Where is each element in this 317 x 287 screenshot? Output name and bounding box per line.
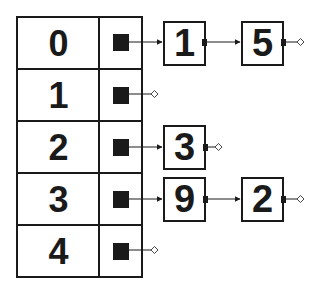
pointer-square-icon: [113, 139, 129, 156]
bucket-row-3: 3: [18, 174, 141, 226]
null-diamond-icon: [297, 196, 304, 203]
bucket-index: 3: [18, 174, 99, 226]
bucket-index: 2: [18, 122, 99, 174]
pointer-square-icon: [113, 87, 129, 104]
hash-table-diagram: 0 1 2 3 4 1 5 3 9 2: [0, 0, 317, 287]
null-diamond-icon: [297, 39, 304, 46]
bucket-array: 0 1 2 3 4: [16, 16, 143, 278]
chain-node-2-0: 3: [163, 125, 206, 170]
bucket-row-0: 0: [18, 18, 141, 70]
bucket-index: 4: [18, 226, 99, 278]
bucket-row-2: 2: [18, 122, 141, 174]
bucket-index: 0: [18, 18, 99, 70]
chain-node-3-0: 9: [163, 177, 206, 222]
bucket-row-4: 4: [18, 226, 141, 278]
null-diamond-icon: [151, 247, 158, 254]
pointer-square-icon: [113, 34, 129, 51]
bucket-index: 1: [18, 70, 99, 122]
null-diamond-icon: [151, 91, 158, 98]
pointer-square-icon: [113, 243, 129, 260]
chain-node-0-1: 5: [241, 21, 284, 66]
chain-node-3-1: 2: [241, 177, 284, 222]
pointer-square-icon: [113, 191, 129, 208]
null-diamond-icon: [215, 144, 222, 151]
bucket-row-1: 1: [18, 70, 141, 122]
chain-node-0-0: 1: [163, 21, 206, 66]
